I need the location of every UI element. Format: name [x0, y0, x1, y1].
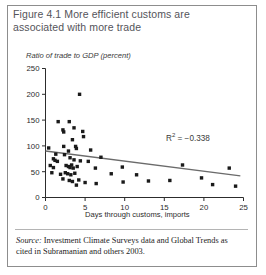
r2-value: = −0.338 [175, 134, 210, 143]
y-tick-label: 100 [26, 142, 40, 151]
data-point [82, 135, 85, 138]
data-point [121, 180, 124, 183]
data-point [68, 179, 71, 182]
r-squared-annotation: R2 = −0.338 [166, 132, 210, 143]
y-tick-label: 200 [26, 90, 40, 99]
data-point [50, 171, 53, 174]
data-point [75, 183, 78, 186]
data-point [70, 163, 73, 166]
y-tick-label: 250 [26, 64, 40, 73]
data-point [181, 163, 184, 166]
data-point [94, 182, 97, 185]
data-point [228, 166, 231, 169]
data-point [79, 159, 82, 162]
data-point [73, 172, 76, 175]
y-tick-label: 150 [26, 116, 40, 125]
data-point [47, 146, 50, 149]
source-note: Source: Investment Climate Surveys data … [16, 236, 244, 257]
y-tick-label: 50 [31, 168, 40, 177]
data-point [211, 183, 214, 186]
data-point [87, 160, 90, 163]
data-point [72, 158, 75, 161]
data-point [56, 120, 59, 123]
data-point [61, 177, 64, 180]
data-point [89, 148, 92, 151]
data-point [147, 179, 150, 182]
data-point [56, 160, 59, 163]
x-tick-label: 20 [200, 203, 209, 212]
data-point [63, 153, 66, 156]
data-point [72, 166, 75, 169]
data-point [234, 184, 237, 187]
data-point [49, 164, 52, 167]
data-point [110, 172, 113, 175]
data-point [68, 156, 71, 159]
plot-axes [46, 69, 244, 198]
x-tick-label: 0 [43, 203, 48, 212]
data-point [135, 173, 138, 176]
data-point [121, 165, 124, 168]
tick-labels: 0501001502002500510152025 [26, 64, 248, 212]
data-point [168, 179, 171, 182]
data-point [68, 120, 71, 123]
data-point [71, 180, 74, 183]
data-point [75, 147, 78, 150]
data-point [72, 126, 75, 129]
data-point [99, 156, 102, 159]
scatter-plot: 0501001502002500510152025 [0, 0, 266, 275]
data-point [69, 173, 72, 176]
x-axis-label: Days through customs, imports [85, 210, 190, 219]
data-point [94, 166, 97, 169]
data-point [54, 152, 57, 155]
data-point [71, 138, 74, 141]
scatter-plot-svg: 0501001502002500510152025 [0, 0, 266, 275]
data-point [77, 178, 80, 181]
data-point [75, 165, 78, 168]
y-tick-label: 0 [35, 193, 40, 202]
data-point [81, 130, 84, 133]
data-point [78, 93, 81, 96]
source-divider [15, 229, 248, 230]
data-point [200, 176, 203, 179]
data-point [67, 149, 70, 152]
data-point [59, 173, 62, 176]
data-point [83, 181, 86, 184]
source-text: Investment Climate Surveys data and Glob… [16, 236, 228, 256]
data-point [52, 166, 55, 169]
data-point [62, 145, 65, 148]
data-point [62, 130, 65, 133]
data-point [66, 172, 69, 175]
x-tick-label: 25 [239, 203, 248, 212]
source-label: Source: [16, 236, 42, 245]
